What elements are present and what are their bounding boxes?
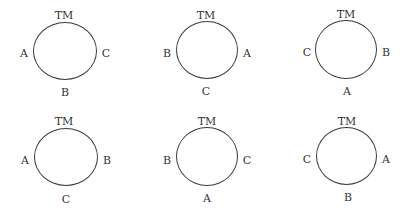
seating-diagram-4: TM A B C	[0, 106, 136, 212]
label-right: A	[382, 154, 390, 165]
label-left: C	[303, 47, 311, 58]
label-top: TM	[55, 10, 74, 21]
label-bottom: A	[343, 86, 351, 97]
label-left: A	[21, 155, 29, 166]
label-top: TM	[55, 116, 74, 127]
circle	[315, 20, 377, 79]
seating-diagram-6: TM C A B	[272, 106, 408, 212]
label-bottom: B	[61, 87, 69, 98]
circle	[316, 127, 377, 185]
circle	[176, 127, 238, 186]
label-right: B	[382, 47, 390, 58]
seating-diagram-1: TM A C B	[0, 0, 136, 106]
label-top: TM	[338, 116, 357, 127]
label-right: A	[243, 48, 251, 59]
label-left: B	[163, 48, 171, 59]
circle	[34, 128, 98, 186]
label-top: TM	[337, 9, 356, 20]
label-right: B	[103, 155, 111, 166]
label-left: A	[20, 48, 28, 59]
circle	[176, 21, 238, 79]
seating-diagram-3: TM C B A	[272, 0, 408, 106]
label-top: TM	[197, 10, 216, 21]
label-right: C	[243, 155, 251, 166]
label-left: C	[303, 154, 311, 165]
label-top: TM	[198, 116, 217, 127]
label-right: C	[102, 48, 110, 59]
label-bottom: C	[62, 194, 70, 205]
label-bottom: A	[203, 193, 211, 204]
seating-diagram-2: TM B A C	[136, 0, 272, 106]
circle	[33, 22, 97, 80]
label-left: B	[163, 155, 171, 166]
seating-diagram-5: TM B C A	[136, 106, 272, 212]
label-bottom: C	[202, 86, 210, 97]
label-bottom: B	[344, 192, 352, 203]
